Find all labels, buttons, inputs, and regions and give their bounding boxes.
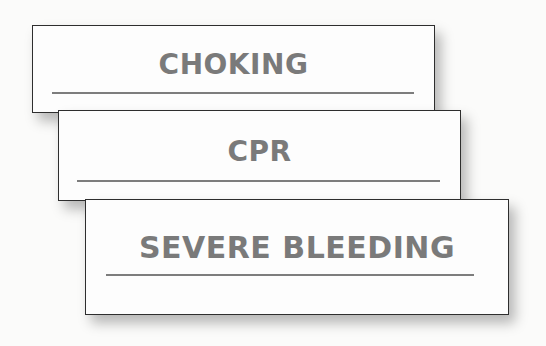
- card-underline: [106, 274, 474, 276]
- card-title: CHOKING: [33, 48, 434, 81]
- card-title: SEVERE BLEEDING: [86, 230, 508, 265]
- card-title: CPR: [59, 135, 460, 168]
- card-choking: CHOKING: [32, 25, 435, 113]
- card-severe-bleeding: SEVERE BLEEDING: [85, 199, 509, 315]
- card-cpr: CPR: [58, 110, 461, 201]
- card-underline: [52, 92, 414, 94]
- card-underline: [77, 180, 440, 182]
